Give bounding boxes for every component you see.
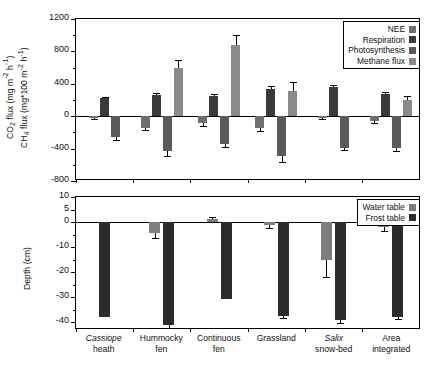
y-tick-major <box>71 272 76 273</box>
error-bar <box>293 82 294 91</box>
x-tick <box>133 179 134 183</box>
y-tick-major <box>71 149 76 150</box>
y-tick-major <box>71 197 76 198</box>
x-category-label: Cassiopeheath <box>75 333 133 363</box>
bar-group <box>76 19 133 179</box>
x-category-line1: Cassiope <box>75 333 133 344</box>
legend-swatch <box>409 47 416 54</box>
y-tick-major <box>71 181 76 182</box>
x-tick <box>190 328 191 332</box>
y-tick-label: 0 <box>64 110 69 119</box>
bar-group <box>190 19 247 179</box>
error-bar-cap <box>266 228 273 229</box>
legend-item: Methane flux <box>348 56 416 67</box>
x-tick <box>76 328 77 332</box>
error-bar-cap <box>280 318 287 319</box>
bar-respiration <box>100 98 109 116</box>
x-tick <box>76 179 77 183</box>
y-tick-major <box>71 210 76 211</box>
x-category-line1: Area <box>363 333 421 344</box>
legend-item: Respiration <box>348 35 416 46</box>
legend-swatch <box>409 26 416 33</box>
y-tick-major <box>71 222 76 223</box>
error-bar-cap <box>91 119 98 120</box>
y-tick-label: 5 <box>64 204 69 213</box>
bar-respiration <box>152 95 161 116</box>
error-bar-cap <box>175 60 182 61</box>
top-panel-y-tick-labels: 12008004000-400-800 <box>36 18 69 180</box>
error-bar-cap <box>164 156 171 157</box>
y-tick-major <box>71 19 76 20</box>
x-category-label: Hummockyfen <box>133 333 191 363</box>
legend-label: Photosynthesis <box>348 45 405 56</box>
bar-photosynthesis <box>277 116 286 156</box>
legend-swatch <box>409 58 416 65</box>
error-bar-cap <box>395 319 402 320</box>
top-y-axis-title-line1: CO2 flux (mg m-2 h-1) <box>2 10 17 185</box>
error-bar-cap <box>102 97 109 98</box>
x-category-line1: Grassland <box>248 333 306 344</box>
legend-label: Respiration <box>363 35 405 46</box>
bar-methane-flux <box>403 100 412 116</box>
x-category-label: Areaintegrated <box>363 333 421 363</box>
legend-label: NEE <box>388 24 405 35</box>
x-tick <box>305 328 306 332</box>
x-category-label: Salixsnow-bed <box>305 333 363 363</box>
bar-frost-table <box>99 222 110 317</box>
y-tick-minor <box>73 35 76 36</box>
x-category-line2: integrated <box>363 344 421 355</box>
bar-nee <box>255 116 264 128</box>
bar-respiration <box>209 96 218 117</box>
bar-photosynthesis <box>163 116 172 151</box>
y-tick-label: -400 <box>51 143 69 152</box>
legend-item: Frost table <box>362 213 416 224</box>
y-tick-minor <box>73 235 76 236</box>
bar-group <box>248 197 305 328</box>
error-bar <box>178 60 179 69</box>
x-category-line2: heath <box>75 344 133 355</box>
bottom-panel-legend: Water tableFrost table <box>357 199 420 226</box>
error-bar-cap <box>257 131 264 132</box>
legend-label: Water table <box>362 202 405 213</box>
bar-frost-table <box>163 222 174 325</box>
bar-methane-flux <box>231 45 240 116</box>
legend-swatch <box>409 214 416 221</box>
legend-label: Methane flux <box>357 56 405 67</box>
x-category-line1: Continuous <box>190 333 248 344</box>
x-category-line2: fen <box>133 344 191 355</box>
error-bar-cap <box>371 123 378 124</box>
y-tick-label: 1200 <box>49 13 69 22</box>
bar-respiration <box>266 89 275 116</box>
legend-swatch <box>409 204 416 211</box>
y-tick-major <box>71 322 76 323</box>
legend-label: Frost table <box>365 213 405 224</box>
x-tick <box>190 179 191 183</box>
y-tick-label: -40 <box>56 316 69 325</box>
y-tick-label: -30 <box>56 291 69 300</box>
x-tick <box>362 328 363 332</box>
error-bar-cap <box>381 231 388 232</box>
y-tick-major <box>71 51 76 52</box>
error-bar-cap <box>279 162 286 163</box>
x-axis-category-labels: CassiopeheathHummockyfenContinuousfenGra… <box>75 333 420 363</box>
legend-item: Photosynthesis <box>348 45 416 56</box>
error-bar-cap <box>404 96 411 97</box>
y-tick-minor <box>73 100 76 101</box>
bar-photosynthesis <box>340 116 349 148</box>
x-tick <box>248 328 249 332</box>
legend-swatch <box>409 36 416 43</box>
bar-nee <box>141 116 150 128</box>
y-tick-minor <box>73 165 76 166</box>
y-tick-label: 400 <box>54 78 69 87</box>
y-tick-minor <box>73 285 76 286</box>
error-bar-cap <box>268 86 275 87</box>
error-bar-cap <box>113 140 120 141</box>
x-category-label: Grassland <box>248 333 306 363</box>
x-tick <box>305 179 306 183</box>
bar-water-table <box>321 222 332 260</box>
y-tick-major <box>71 116 76 117</box>
x-tick <box>133 328 134 332</box>
error-bar-cap <box>382 92 389 93</box>
y-tick-label: -10 <box>56 241 69 250</box>
y-tick-label: 10 <box>59 191 69 200</box>
